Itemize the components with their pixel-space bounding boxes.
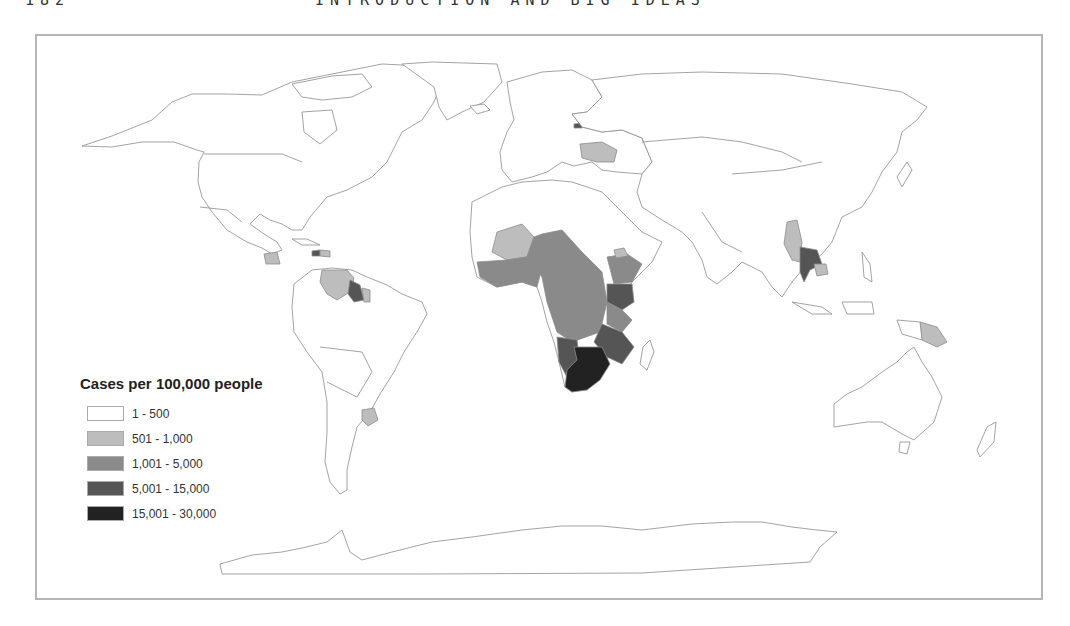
legend-item: 5,001 - 15,000 [78, 476, 298, 501]
map-legend: Cases per 100,000 people 1 - 500 501 - 1… [78, 375, 298, 526]
landmass-australia [834, 347, 942, 440]
legend-label: 1 - 500 [132, 407, 169, 421]
legend-swatch [87, 481, 124, 496]
legend-swatch [87, 456, 124, 471]
landmass-north-america [82, 64, 442, 254]
region-haiti [312, 250, 320, 256]
legend-label: 1,001 - 5,000 [132, 457, 203, 471]
legend-label: 15,001 - 30,000 [132, 507, 216, 521]
legend-item: 15,001 - 30,000 [78, 501, 298, 526]
legend-swatch [87, 431, 124, 446]
legend-label: 501 - 1,000 [132, 432, 193, 446]
legend-swatch [87, 406, 124, 421]
legend-item: 1 - 500 [78, 401, 298, 426]
region-dominican-republic [320, 250, 330, 257]
running-head: INTRODUCTION AND BIG IDEAS [315, 0, 706, 9]
legend-label: 5,001 - 15,000 [132, 482, 209, 496]
region-cambodia [814, 264, 828, 276]
region-papua-new-guinea [920, 322, 947, 347]
region-uruguay [362, 408, 378, 426]
legend-item: 501 - 1,000 [78, 426, 298, 451]
landmass-south-america [292, 268, 427, 494]
legend-swatch [87, 506, 124, 521]
legend-item: 1,001 - 5,000 [78, 451, 298, 476]
map-figure: Cases per 100,000 people 1 - 500 501 - 1… [35, 34, 1043, 600]
page-header: 182 INTRODUCTION AND BIG IDEAS [0, 0, 1070, 9]
region-honduras [264, 252, 280, 264]
page-number: 182 [25, 0, 70, 9]
landmass-antarctica [220, 522, 837, 574]
legend-title: Cases per 100,000 people [80, 375, 298, 392]
